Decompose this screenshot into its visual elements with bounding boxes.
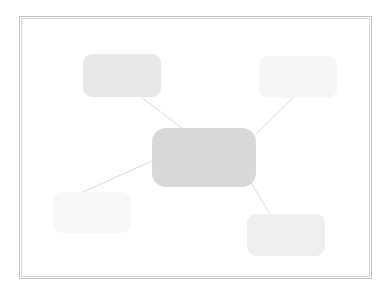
node-bottom-right[interactable] bbox=[247, 214, 325, 256]
node-bottom-left[interactable] bbox=[53, 192, 131, 233]
node-top-left[interactable] bbox=[83, 54, 161, 97]
node-top-right[interactable] bbox=[259, 56, 337, 98]
mind-map-canvas bbox=[0, 0, 392, 298]
node-center[interactable] bbox=[152, 128, 256, 187]
